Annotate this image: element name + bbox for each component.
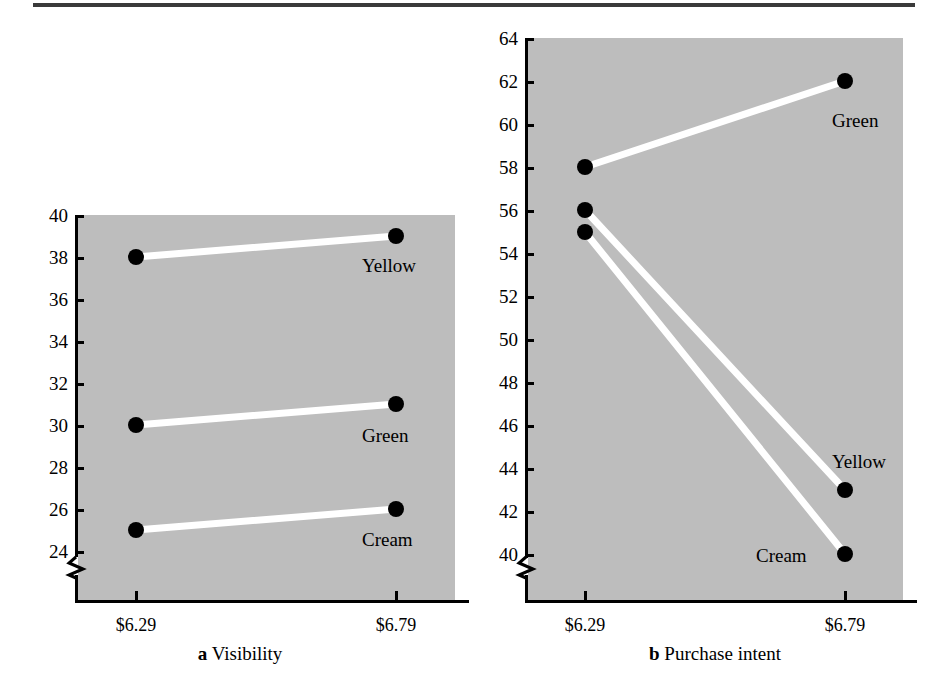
panel-b-series-label-yellow: Yellow xyxy=(832,452,886,471)
figure-canvas: 40 38 36 34 32 30 28 26 24 Yellow Green … xyxy=(0,0,937,676)
panel-b-xtick xyxy=(584,591,587,601)
panel-b-purchase-intent: 64 62 60 58 56 54 52 50 48 46 44 42 40 G… xyxy=(0,0,937,676)
panel-b-series-graphics xyxy=(0,0,937,676)
panel-b-caption-text: Purchase intent xyxy=(664,643,781,664)
panel-b-line-cream xyxy=(585,232,845,554)
panel-b-point-green-629 xyxy=(577,159,593,175)
panel-b-point-cream-679 xyxy=(837,546,853,562)
panel-b-xtick-label: $6.79 xyxy=(795,616,895,634)
panel-b-xtick-label: $6.29 xyxy=(535,616,635,634)
panel-b-line-green xyxy=(585,81,845,167)
panel-b-series-label-green: Green xyxy=(832,111,878,130)
panel-b-point-yellow-679 xyxy=(837,482,853,498)
panel-b-point-cream-629 xyxy=(577,224,593,240)
panel-b-xtick xyxy=(844,591,847,601)
panel-b-point-green-679 xyxy=(837,73,853,89)
panel-b-line-yellow xyxy=(585,210,845,490)
panel-b-caption-letter: b xyxy=(649,643,660,664)
panel-b-point-yellow-629 xyxy=(577,202,593,218)
panel-b-caption: b Purchase intent xyxy=(575,644,855,663)
panel-b-series-label-cream: Cream xyxy=(756,546,807,565)
